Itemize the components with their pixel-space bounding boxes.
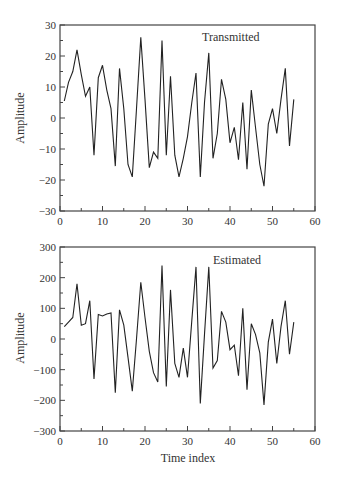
x-tick-label: 40: [225, 435, 237, 447]
chart-title: Transmitted: [202, 30, 260, 44]
x-tick-label: 30: [182, 435, 194, 447]
series-line: [64, 37, 293, 186]
x-tick-label: 60: [310, 215, 322, 227]
y-tick-label: 200: [40, 272, 57, 284]
x-tick-label: 40: [225, 215, 237, 227]
y-tick-label: −100: [33, 364, 56, 376]
y-tick-label: 300: [40, 241, 57, 253]
y-axis-label: Amplitude: [13, 312, 27, 363]
y-tick-label: −20: [39, 174, 57, 186]
x-tick-label: 30: [182, 215, 194, 227]
x-tick-label: 10: [97, 435, 109, 447]
x-tick-label: 50: [267, 435, 279, 447]
chart-title: Estimated: [213, 253, 261, 267]
plot-frame: [60, 247, 315, 431]
y-tick-label: 30: [45, 19, 57, 31]
x-tick-label: 10: [97, 215, 109, 227]
transmitted-chart: Transmitted Amplitude 0102030405060−30−2…: [0, 0, 338, 235]
y-tick-label: 0: [51, 333, 57, 345]
transmitted-plot: Transmitted Amplitude 0102030405060−30−2…: [0, 0, 338, 235]
y-tick-label: −30: [39, 205, 57, 217]
estimated-plot: Estimated Amplitude Time index 010203040…: [0, 235, 338, 477]
series-line: [64, 265, 293, 405]
x-tick-label: 0: [57, 435, 63, 447]
x-tick-label: 0: [57, 215, 63, 227]
x-axis-label: Time index: [161, 451, 216, 465]
y-tick-label: −200: [33, 394, 56, 406]
y-tick-label: 20: [45, 50, 57, 62]
y-axis-label: Amplitude: [13, 92, 27, 143]
y-tick-label: −300: [33, 425, 56, 437]
estimated-chart: Estimated Amplitude Time index 010203040…: [0, 235, 338, 477]
x-tick-label: 50: [267, 215, 279, 227]
x-tick-label: 20: [140, 435, 152, 447]
x-tick-label: 60: [310, 435, 322, 447]
y-tick-label: 10: [45, 81, 57, 93]
plot-frame: [60, 25, 315, 211]
y-tick-label: 0: [51, 112, 57, 124]
x-tick-label: 20: [140, 215, 152, 227]
y-tick-label: 100: [40, 302, 57, 314]
y-tick-label: −10: [39, 143, 57, 155]
